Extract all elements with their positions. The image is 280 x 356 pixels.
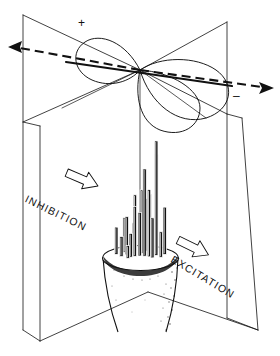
excitation-arrow-icon <box>174 232 212 263</box>
figure-canvas: + – INHIBITION EXCITATION <box>0 0 280 356</box>
block-arrow-layer <box>0 0 280 356</box>
inhibition-arrow-icon <box>63 164 101 194</box>
